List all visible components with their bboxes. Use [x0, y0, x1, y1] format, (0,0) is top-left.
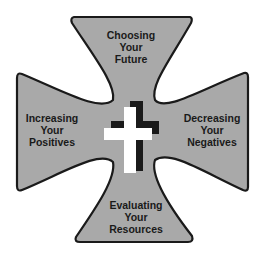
label-right-line-1: Decreasing — [184, 112, 241, 124]
label-bottom-line-2: Your — [124, 211, 147, 223]
label-left-line-2: Your — [40, 124, 63, 136]
label-bottom-line-1: Evaluating — [109, 199, 162, 211]
label-top-line-2: Your — [119, 41, 142, 53]
maltese-cross-diagram: Choosing Your Future Increasing Your Pos… — [0, 0, 263, 259]
label-left-line-1: Increasing — [26, 112, 79, 124]
label-right-line-3: Negatives — [187, 136, 237, 148]
label-top-line-1: Choosing — [107, 29, 155, 41]
label-top-line-3: Future — [115, 53, 148, 65]
label-left-line-3: Positives — [29, 136, 75, 148]
label-right-line-2: Your — [200, 124, 223, 136]
label-bottom-line-3: Resources — [109, 223, 163, 235]
